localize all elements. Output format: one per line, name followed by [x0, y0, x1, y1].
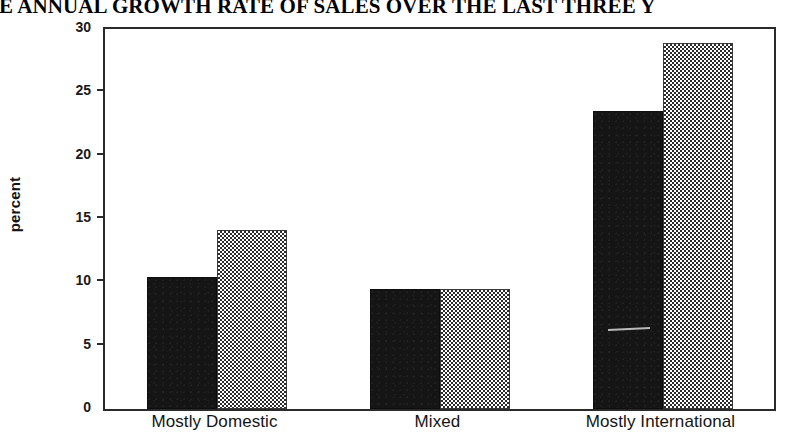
x-axis-labels: Mostly DomesticMixedMostly International [0, 412, 786, 441]
x-tick-label: Mostly Domestic [151, 412, 277, 432]
bar [663, 43, 733, 409]
plot-area [103, 27, 776, 411]
chart-title-clip: RAGE ANNUAL GROWTH RATE OF SALES OVER TH… [0, 0, 786, 17]
y-tick-label: 25 [51, 82, 91, 98]
y-tick-label: 5 [51, 336, 91, 352]
bar [440, 289, 510, 409]
x-tick-label: Mixed [415, 412, 461, 432]
bar [147, 277, 217, 409]
scan-artifact [607, 327, 649, 331]
y-axis-ticks: 051015202530 [0, 0, 103, 441]
y-tick-label: 30 [51, 19, 91, 35]
bar [217, 230, 287, 409]
bar-group-container [105, 29, 774, 409]
x-tick-label: Mostly International [586, 412, 735, 432]
y-tick-label: 15 [51, 209, 91, 225]
bar [370, 289, 440, 409]
y-tick-label: 10 [51, 272, 91, 288]
bar [593, 111, 663, 409]
y-tick-label: 20 [51, 146, 91, 162]
chart-figure: RAGE ANNUAL GROWTH RATE OF SALES OVER TH… [0, 0, 786, 441]
